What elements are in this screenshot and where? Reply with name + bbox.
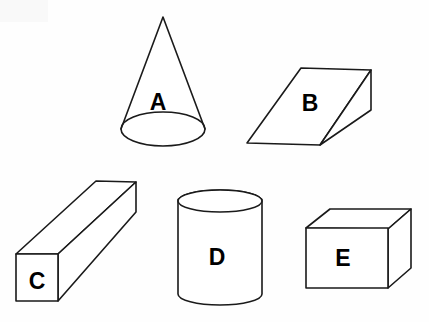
shape-label-b: B [302, 90, 319, 116]
shape-label-a: A [150, 89, 167, 115]
shape-wedge-b: B [247, 68, 371, 145]
shape-label-e: E [335, 245, 350, 271]
shape-box-e: E [306, 209, 411, 288]
shape-cone-a: A [121, 17, 205, 146]
cone-body [121, 17, 205, 146]
geometric-shapes-figure: A B C D E [0, 0, 429, 322]
shape-cylinder-d: D [178, 190, 262, 305]
cylinder-top-ellipse [178, 190, 262, 212]
shape-label-d: D [209, 244, 226, 270]
shapes-svg: A B C D E [0, 0, 429, 322]
shape-beam-c: C [16, 181, 136, 301]
shape-label-c: C [29, 268, 46, 294]
